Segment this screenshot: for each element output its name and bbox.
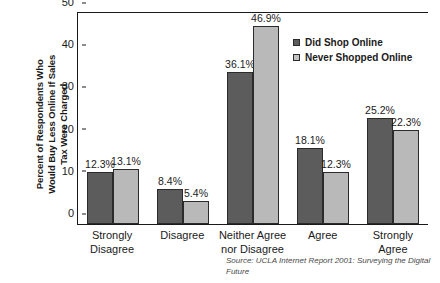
- y-tick-40: 40: [62, 39, 78, 50]
- source-note: Source: UCLA Internet Report 2001: Surve…: [226, 256, 431, 277]
- bar-value-label: 25.2%: [365, 105, 395, 116]
- bar[interactable]: 25.2%: [367, 118, 393, 224]
- y-tick-mark: [82, 2, 86, 3]
- bar-value-label: 8.4%: [158, 176, 182, 187]
- y-tick-30: 30: [62, 81, 78, 92]
- y-tick-label: 30: [62, 81, 78, 92]
- bar-chart: Percent of Respondents Who Would Buy Les…: [0, 0, 440, 283]
- bar-group: 12.3%13.1%: [78, 13, 148, 224]
- bar[interactable]: 12.3%: [87, 172, 113, 224]
- legend-item[interactable]: Did Shop Online: [293, 36, 412, 49]
- legend-label: Never Shopped Online: [305, 52, 412, 63]
- y-tick-0: 0: [68, 208, 78, 219]
- bar[interactable]: 12.3%: [323, 172, 349, 224]
- legend-item[interactable]: Never Shopped Online: [293, 51, 412, 64]
- x-axis-category-label: Strongly Agree: [358, 229, 428, 256]
- bar[interactable]: 22.3%: [393, 130, 419, 224]
- y-tick-20: 20: [62, 123, 78, 134]
- bar[interactable]: 5.4%: [183, 201, 209, 224]
- y-tick-label: 10: [62, 165, 78, 176]
- legend: Did Shop OnlineNever Shopped Online: [293, 36, 412, 66]
- bar[interactable]: 36.1%: [227, 72, 253, 224]
- bar-group: 36.1%46.9%: [218, 13, 288, 224]
- bar-value-label: 5.4%: [184, 188, 208, 199]
- y-tick-label: 50: [62, 0, 78, 8]
- bar-value-label: 22.3%: [391, 117, 421, 128]
- x-axis-category-label: Disagree: [147, 229, 217, 256]
- x-axis-category-label: Neither Agree nor Disagree: [217, 229, 287, 256]
- bar[interactable]: 18.1%: [297, 148, 323, 224]
- x-axis-category-label: Agree: [288, 229, 358, 256]
- bar[interactable]: 8.4%: [157, 189, 183, 224]
- legend-swatch-icon: [293, 54, 300, 61]
- x-axis-category-label: Strongly Disagree: [77, 229, 147, 256]
- bar-value-label: 36.1%: [225, 59, 255, 70]
- bar-group: 8.4%5.4%: [148, 13, 218, 224]
- bar[interactable]: 46.9%: [253, 26, 279, 224]
- y-tick-label: 20: [62, 123, 78, 134]
- bar[interactable]: 13.1%: [113, 169, 139, 224]
- x-axis-labels: Strongly DisagreeDisagreeNeither Agree n…: [77, 229, 428, 256]
- bar-value-label: 12.3%: [321, 159, 351, 170]
- bar-value-label: 13.1%: [111, 156, 141, 167]
- bar-pair: 36.1%46.9%: [218, 13, 288, 224]
- y-tick-label: 0: [68, 208, 78, 219]
- y-tick-50: 50: [62, 0, 78, 8]
- bar-pair: 8.4%5.4%: [148, 13, 218, 224]
- legend-label: Did Shop Online: [305, 37, 383, 48]
- y-tick-10: 10: [62, 165, 78, 176]
- y-tick-label: 40: [62, 39, 78, 50]
- bar-value-label: 46.9%: [251, 13, 281, 24]
- bar-pair: 12.3%13.1%: [78, 13, 148, 224]
- bar-value-label: 18.1%: [295, 135, 325, 146]
- legend-swatch-icon: [293, 39, 300, 46]
